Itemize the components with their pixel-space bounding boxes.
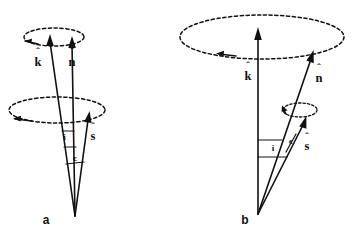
rotation-arrowhead	[25, 39, 32, 44]
label-n-hat-caret: ̂	[317, 63, 321, 65]
vector-arrowhead	[68, 36, 76, 48]
vector-shaft	[258, 59, 311, 214]
panel-b-small-spin-circle	[282, 103, 317, 117]
figure-root: k ̂ n ̂ s ̂ i ϵ a	[0, 0, 360, 235]
dashed-circle-ellipse	[180, 15, 344, 59]
panel-a-vector-s-hat	[75, 111, 92, 216]
vector-shaft	[258, 125, 303, 214]
diagram-canvas: k ̂ n ̂ s ̂ i ϵ a	[0, 0, 360, 235]
label-angle-epsilon: ϵ	[73, 153, 77, 163]
vector-arrowhead	[306, 50, 313, 63]
panel-b-vector-k-hat	[254, 27, 262, 214]
vector-arrowhead	[299, 116, 306, 129]
label-n-hat: n	[69, 55, 76, 69]
panel-label-a: a	[43, 213, 50, 227]
panel-b-vector-n-hat	[258, 50, 314, 214]
vector-shaft	[75, 120, 88, 216]
label-k-hat-caret: ̂	[246, 61, 250, 63]
label-angle-i: i	[63, 132, 66, 142]
vector-arrowhead	[254, 27, 262, 40]
label-angle-epsilon: ϵ	[289, 136, 293, 146]
dashed-circle-ellipse-small	[283, 103, 317, 117]
panel-a: k ̂ n ̂ s ̂ i ϵ a	[9, 28, 105, 227]
rotation-arrowhead	[282, 106, 288, 112]
label-k-hat: k	[245, 69, 252, 83]
panel-b-large-precession-circle	[180, 15, 344, 59]
label-s-hat-caret: ̂	[305, 132, 309, 134]
vector-shaft	[72, 44, 75, 216]
panel-a-upper-precession-circle	[24, 28, 84, 46]
vector-arrowhead	[46, 34, 54, 46]
label-angle-i: i	[272, 143, 275, 153]
label-n-hat: n	[316, 71, 323, 85]
label-k-hat-caret: ̂	[36, 47, 40, 49]
vector-arrowhead	[84, 111, 92, 123]
label-s-hat: s	[305, 139, 310, 153]
label-k-hat: k	[35, 55, 42, 69]
panel-b: k ̂ n ̂ s ̂ i ϵ b	[180, 15, 344, 227]
panel-label-b: b	[241, 213, 248, 227]
panel-b-vector-s-hat	[258, 116, 306, 214]
label-s-hat: s	[91, 129, 96, 143]
